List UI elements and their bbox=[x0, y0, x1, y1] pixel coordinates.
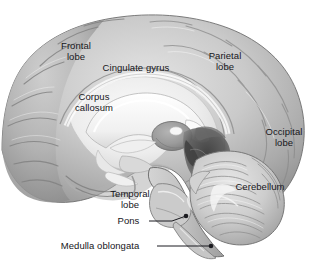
brain-illustration bbox=[0, 0, 316, 269]
brain-diagram-figure: Frontal lobe Cingulate gyrus Parietal lo… bbox=[0, 0, 316, 269]
